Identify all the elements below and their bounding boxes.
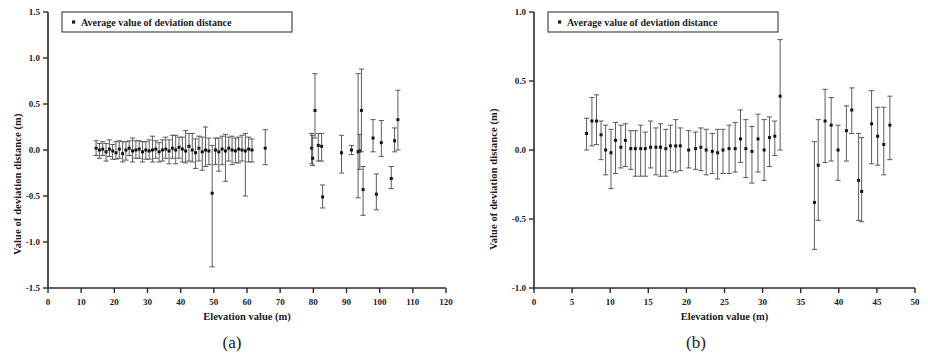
data-point-marker — [320, 145, 323, 148]
y-tick-label: -1.5 — [26, 283, 41, 293]
x-tick-label: 80 — [309, 297, 319, 307]
data-point-marker — [739, 137, 742, 140]
y-tick-label: -0.5 — [512, 214, 527, 224]
data-point-marker — [659, 146, 662, 149]
x-tick-label: 90 — [342, 297, 352, 307]
x-tick-label: 110 — [406, 297, 420, 307]
data-point-marker — [148, 149, 151, 152]
y-axis-title-a: Value of deviation distance (m) — [12, 113, 23, 255]
data-point-marker — [860, 190, 863, 193]
data-point-marker — [151, 149, 154, 152]
data-point-marker — [201, 150, 204, 153]
data-point-marker — [380, 141, 383, 144]
data-point-marker — [768, 136, 771, 139]
panel-a-caption: (a) — [0, 333, 464, 353]
data-series — [93, 69, 400, 267]
data-point-marker — [221, 148, 224, 151]
data-point-marker — [197, 147, 200, 150]
x-axis-title-a: Elevation value (m) — [48, 311, 446, 322]
data-point-marker — [264, 147, 267, 150]
y-tick-label: 0.5 — [29, 99, 41, 109]
data-point-marker — [340, 151, 343, 154]
data-point-marker — [241, 149, 244, 152]
data-point-marker — [629, 147, 632, 150]
data-point-marker — [744, 147, 747, 150]
data-point-marker — [654, 146, 657, 149]
data-point-marker — [168, 149, 171, 152]
legend-marker-icon — [72, 20, 75, 23]
x-tick-label: 5 — [570, 297, 575, 307]
legend-marker-icon — [558, 20, 561, 23]
data-point-marker — [763, 149, 766, 152]
data-point-marker — [664, 147, 667, 150]
x-tick-label: 40 — [834, 297, 844, 307]
x-tick-label: 40 — [176, 297, 186, 307]
x-tick-label: 15 — [644, 297, 654, 307]
data-point-marker — [699, 146, 702, 149]
data-point-marker — [773, 135, 776, 138]
data-point-marker — [687, 149, 690, 152]
chart-b: -1.0-0.50.00.51.005101520253035404550Ave… — [464, 0, 928, 325]
data-point-marker — [144, 149, 147, 152]
data-point-marker — [244, 149, 247, 152]
data-point-marker — [311, 157, 314, 160]
y-tick-label: 1.5 — [29, 7, 41, 17]
data-point-marker — [158, 150, 161, 153]
data-point-marker — [595, 120, 598, 123]
data-point-marker — [108, 148, 111, 151]
data-point-marker — [757, 137, 760, 140]
x-tick-label: 30 — [143, 297, 153, 307]
data-point-marker — [191, 149, 194, 152]
y-tick-label: 0.0 — [515, 145, 527, 155]
data-point-marker — [187, 145, 190, 148]
data-point-marker — [124, 149, 127, 152]
figure-container: -1.5-1.0-0.50.00.51.01.50102030405060708… — [0, 0, 928, 362]
data-point-marker — [138, 148, 141, 151]
data-point-marker — [194, 151, 197, 154]
data-point-marker — [694, 147, 697, 150]
data-point-marker — [870, 122, 873, 125]
data-point-marker — [390, 177, 393, 180]
data-point-marker — [114, 151, 117, 154]
x-tick-label: 30 — [758, 297, 768, 307]
data-point-marker — [750, 150, 753, 153]
data-point-marker — [604, 149, 607, 152]
data-point-marker — [705, 149, 708, 152]
x-tick-label: 70 — [276, 297, 286, 307]
x-axis-title-b: Elevation value (m) — [534, 311, 915, 322]
data-point-marker — [98, 149, 101, 152]
data-point-marker — [817, 164, 820, 167]
x-tick-label: 50 — [209, 297, 219, 307]
data-point-marker — [830, 124, 833, 127]
panel-a: -1.5-1.0-0.50.00.51.01.50102030405060708… — [0, 0, 464, 362]
data-point-marker — [211, 192, 214, 195]
data-point-marker — [779, 95, 782, 98]
x-tick-label: 10 — [77, 297, 87, 307]
data-point-marker — [321, 195, 324, 198]
data-point-marker — [876, 135, 879, 138]
y-tick-label: -1.0 — [26, 237, 41, 247]
data-point-marker — [590, 120, 593, 123]
data-point-marker — [813, 201, 816, 204]
data-series — [584, 40, 892, 250]
x-tick-label: 60 — [243, 297, 253, 307]
panel-b-caption: (b) — [464, 333, 928, 353]
y-tick-label: 1.0 — [515, 7, 527, 17]
data-point-marker — [178, 146, 181, 149]
data-point-marker — [624, 139, 627, 142]
data-point-marker — [317, 144, 320, 147]
data-point-marker — [214, 149, 217, 152]
data-point-marker — [393, 139, 396, 142]
data-point-marker — [882, 143, 885, 146]
data-point-marker — [857, 179, 860, 182]
data-point-marker — [609, 151, 612, 154]
data-point-marker — [141, 150, 144, 153]
data-point-marker — [585, 132, 588, 135]
legend-label: Average value of deviation distance — [81, 17, 232, 28]
chart-a: -1.5-1.0-0.50.00.51.01.50102030405060708… — [0, 0, 464, 325]
y-tick-label: 1.0 — [29, 53, 41, 63]
x-tick-label: 25 — [720, 297, 730, 307]
data-point-marker — [154, 148, 157, 151]
data-point-marker — [372, 137, 375, 140]
data-point-marker — [888, 124, 891, 127]
